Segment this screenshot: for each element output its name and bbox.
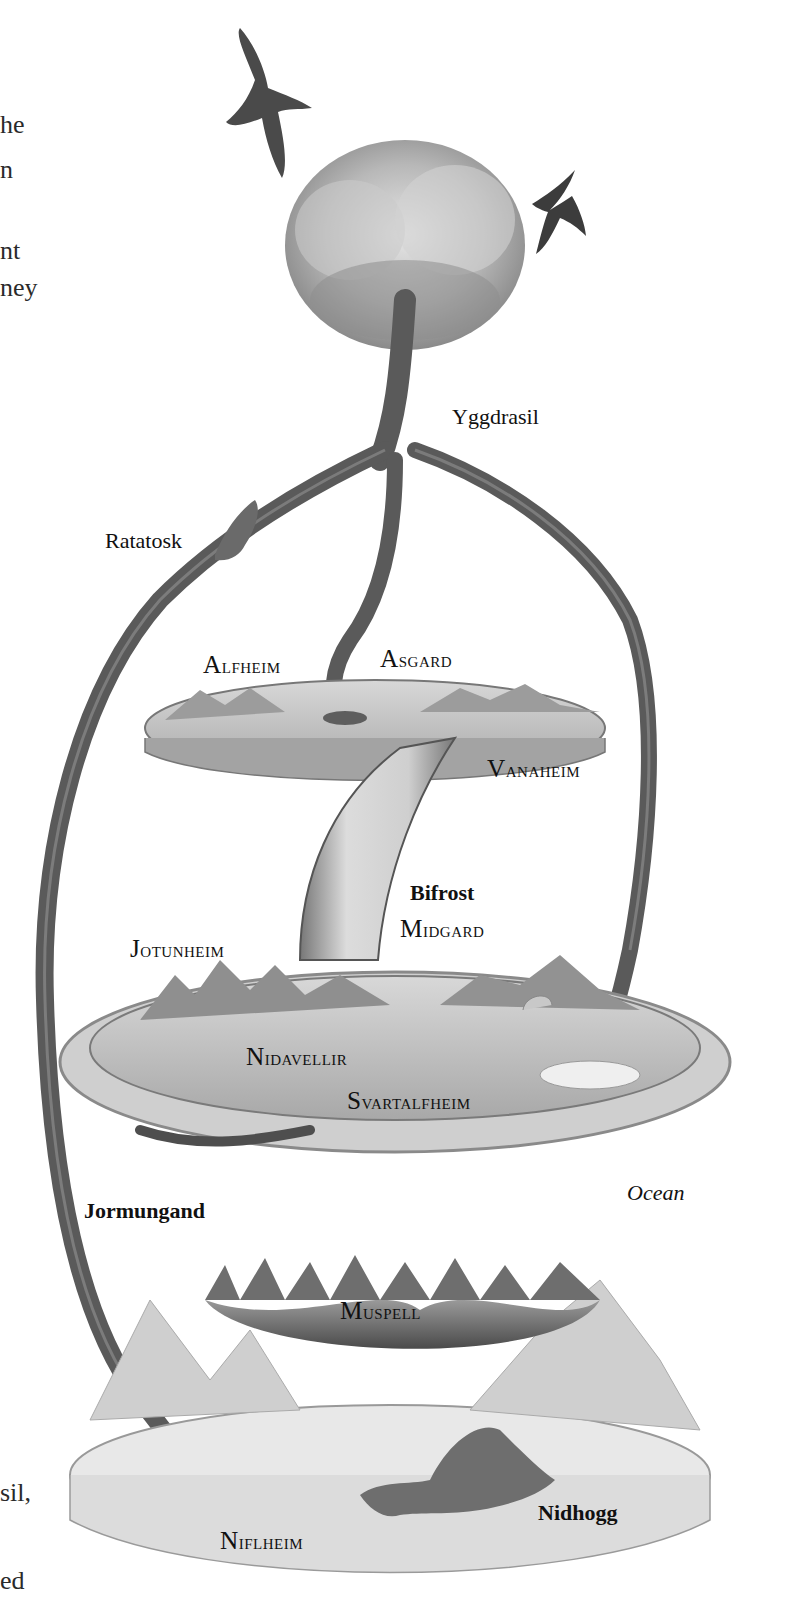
label-jormungand: Jormungand	[84, 1200, 205, 1222]
label-ratatosk: Ratatosk	[105, 530, 182, 552]
label-muspell: Muspell	[340, 1298, 421, 1323]
label-vanaheim: Vanaheim	[487, 756, 580, 781]
label-bifrost: Bifrost	[410, 882, 474, 904]
label-niflheim: Niflheim	[220, 1528, 303, 1553]
label-asgard: Asgard	[380, 646, 452, 671]
eagle-icon	[226, 28, 312, 178]
edge-text-fragment-5: sil,	[0, 1480, 31, 1506]
label-svartalfheim: Svartalfheim	[347, 1088, 471, 1113]
edge-text-fragment-6: ed	[0, 1568, 25, 1594]
label-midgard: Midgard	[400, 916, 484, 941]
edge-text-fragment-3: nt	[0, 238, 20, 264]
label-nidhogg: Nidhogg	[538, 1502, 617, 1524]
raven-icon	[532, 170, 586, 254]
edge-text-fragment-1: he	[0, 112, 25, 138]
edge-text-fragment-4: ney	[0, 275, 38, 301]
label-ocean: Ocean	[627, 1182, 684, 1204]
label-jotunheim: Jotunheim	[130, 936, 224, 961]
label-nidavellir: Nidavellir	[246, 1044, 347, 1069]
label-alfheim: Alfheim	[203, 652, 281, 677]
edge-text-fragment-2: n	[0, 157, 13, 183]
yggdrasil-illustration	[0, 0, 790, 1622]
squirrel-icon	[215, 500, 258, 560]
label-yggdrasil: Yggdrasil	[452, 406, 539, 428]
